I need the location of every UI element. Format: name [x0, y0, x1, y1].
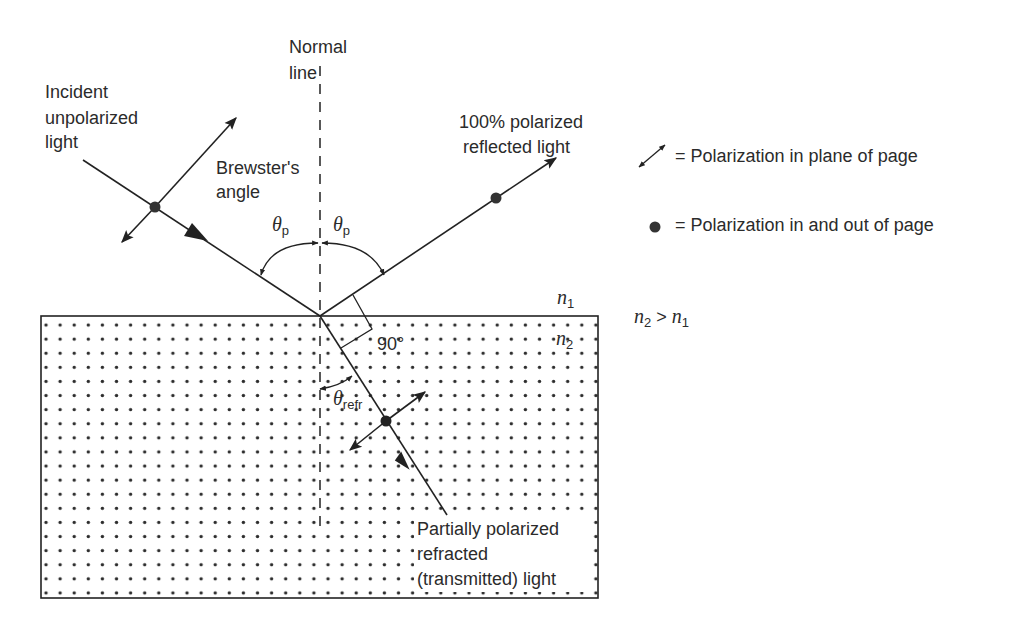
brewster-angle-label: Brewster's angle [216, 158, 304, 202]
refracted-polarization-dot-icon [381, 416, 392, 427]
theta-p-right-label: θp [333, 213, 350, 238]
svg-text:= Polarization in and out of p: = Polarization in and out of page [675, 215, 934, 235]
svg-text:= Polarization in plane of pag: = Polarization in plane of page [675, 146, 918, 166]
legend-item-out-of-page: = Polarization in and out of page [650, 215, 934, 235]
reflected-ray [320, 158, 556, 316]
reflected-label: 100% polarized reflected light [459, 112, 588, 157]
double-arrow-icon [652, 145, 665, 156]
incident-direction-arrow-icon [184, 223, 208, 241]
right-angle-label: 90° [377, 334, 404, 354]
brewster-diagram: Normal line Incident unpolarized light B… [0, 0, 1025, 633]
legend: = Polarization in plane of page = Polari… [639, 145, 934, 235]
brewster-angle-arcs [261, 243, 384, 275]
index-relation-label: n2 > n1 [634, 305, 689, 330]
theta-p-left-label: θp [272, 213, 289, 238]
reflected-polarization-dot-icon [491, 193, 502, 204]
dot-icon [650, 222, 661, 233]
legend-item-in-plane: = Polarization in plane of page [639, 145, 918, 167]
incident-polarization-dot-icon [150, 202, 161, 213]
normal-line-label: Normal line [289, 37, 352, 83]
incident-ray [83, 118, 320, 316]
n1-label: n1 [557, 286, 574, 311]
incident-label: Incident unpolarized light [45, 82, 143, 152]
